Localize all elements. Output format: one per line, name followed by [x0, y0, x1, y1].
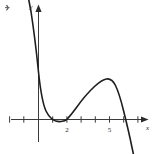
function-curve — [29, 0, 134, 154]
x-axis-label: x — [145, 124, 150, 132]
x-axis — [11, 116, 149, 122]
x-tick-label-5: 5 — [108, 126, 112, 134]
figure-container: 2 5 x y — [0, 0, 156, 154]
corner-marker-icon — [5, 5, 10, 11]
graph-svg: 2 5 x y — [0, 0, 156, 154]
y-axis-label: y — [29, 3, 34, 11]
x-tick-label-2: 2 — [65, 126, 69, 134]
